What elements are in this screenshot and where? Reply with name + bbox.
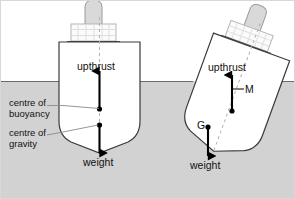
centre-of-gravity-annotation: centre of gravity [9,128,46,150]
tilted-ship-weight-label: weight [190,159,220,171]
upright-ship [47,1,140,153]
upright-ship-upthrust-label: upthrust [77,60,115,72]
upright-ship-funnel [85,1,102,25]
centre-of-buoyancy-annotation: centre of buoyancy [9,98,50,120]
buoyancy-stability-diagram: upthrust weight upthrust weight M G cent… [0,0,295,199]
upright-ship-weight-label: weight [83,156,113,168]
centre-of-gravity-line2: gravity [9,139,46,150]
metacentre-label: M [245,83,254,95]
tilted-ship-upthrust-label: upthrust [208,61,246,73]
centre-of-buoyancy-line2: buoyancy [9,109,50,120]
centre-of-gravity-point-label: G [197,119,205,131]
upright-ship-deckhouse [71,24,116,41]
